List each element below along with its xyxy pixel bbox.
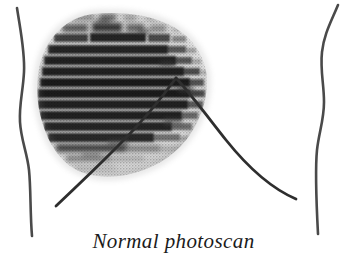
photoscan-svg — [0, 0, 347, 258]
photoscan-figure — [0, 0, 347, 258]
